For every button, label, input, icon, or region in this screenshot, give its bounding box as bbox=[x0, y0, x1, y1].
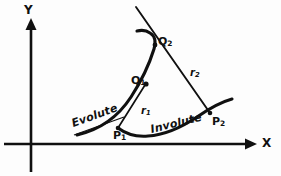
radius-label-r1-sub: 1 bbox=[146, 109, 151, 117]
evolute-involute-diagram: Y X Q2 Q1 P1 P2 r1 r2 Evolute Involute bbox=[0, 0, 281, 176]
radius-label-r1: r1 bbox=[141, 106, 151, 117]
point-label-q1: Q1 bbox=[131, 75, 146, 87]
point-label-p2-base: P bbox=[212, 115, 220, 128]
point-label-p1: P1 bbox=[113, 130, 126, 142]
diagram-canvas bbox=[0, 0, 281, 176]
radius-r2-line bbox=[136, 7, 210, 113]
point-label-q1-sub: 1 bbox=[140, 78, 145, 87]
y-axis-label: Y bbox=[24, 4, 33, 16]
point-label-q2: Q2 bbox=[158, 36, 173, 48]
point-label-q1-base: Q bbox=[131, 74, 140, 87]
point-label-q2-sub: 2 bbox=[167, 39, 172, 48]
point-label-p1-base: P bbox=[113, 129, 121, 142]
point-marker-q2 bbox=[153, 43, 158, 48]
radius-r2-group bbox=[136, 7, 210, 113]
point-label-p1-sub: 1 bbox=[121, 133, 126, 142]
point-label-q2-base: Q bbox=[158, 35, 167, 48]
point-label-p2: P2 bbox=[212, 116, 225, 128]
x-axis-label: X bbox=[262, 137, 271, 149]
y-axis-arrowhead bbox=[26, 18, 37, 30]
radius-label-r2-sub: 2 bbox=[195, 71, 200, 79]
point-label-p2-sub: 2 bbox=[220, 119, 225, 128]
x-axis-arrowhead bbox=[245, 139, 257, 150]
radius-label-r2: r2 bbox=[190, 68, 200, 79]
